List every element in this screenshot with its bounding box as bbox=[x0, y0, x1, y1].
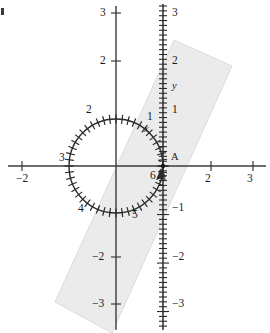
x-axis-tick-label-2: 3 bbox=[247, 173, 253, 185]
circle-variable-label-x: x bbox=[144, 124, 149, 135]
left-axis-tick-label-0: 3 bbox=[100, 7, 106, 19]
circle-label-3: 3 bbox=[59, 152, 65, 164]
y-axis-label-0: 3 bbox=[172, 7, 178, 19]
circle-label-5: 5 bbox=[132, 209, 138, 221]
point-A-marker bbox=[161, 164, 165, 168]
y-axis-label-y: y bbox=[172, 81, 177, 92]
y-axis-label-4: −1 bbox=[172, 202, 184, 214]
left-axis-tick-label-3: −3 bbox=[92, 298, 104, 310]
circle-label-6: 6 bbox=[150, 170, 156, 182]
shaded-parallelogram bbox=[55, 40, 232, 333]
x-axis-tick-label-1: 2 bbox=[205, 173, 211, 185]
figure-canvas bbox=[0, 0, 270, 333]
left-axis-tick-label-1: 2 bbox=[100, 55, 106, 67]
circle-label-1: 1 bbox=[147, 111, 153, 123]
point-A-label: A bbox=[171, 152, 179, 163]
x-axis-tick-label-0: −2 bbox=[16, 173, 28, 185]
circle-label-2: 2 bbox=[86, 104, 92, 116]
math-figure: −22332−2−332y1−1−2−3A123456x bbox=[0, 0, 270, 333]
left-axis-tick-label-2: −2 bbox=[92, 251, 104, 263]
y-axis-label-3: 1 bbox=[172, 104, 178, 116]
y-axis-label-1: 2 bbox=[172, 55, 178, 67]
y-axis-label-6: −3 bbox=[172, 298, 184, 310]
circle-label-4: 4 bbox=[78, 203, 84, 215]
y-axis-label-5: −2 bbox=[172, 251, 184, 263]
